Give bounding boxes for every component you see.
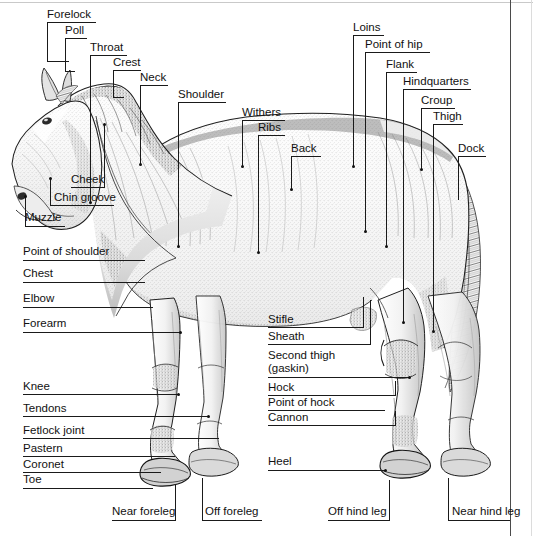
leader-poll-stem — [65, 38, 66, 72]
leader-off-hind-leg-underline — [328, 520, 390, 521]
leader-forelock-stem — [47, 22, 48, 62]
leader-sheath-stem — [370, 300, 371, 345]
label-ribs: Ribs — [258, 121, 281, 133]
diagram-canvas: Forelock Poll Throat Crest Neck Shoulder… — [0, 0, 533, 536]
point-neck — [139, 163, 142, 166]
leader-muzzle-underline — [25, 226, 65, 227]
point-heel — [384, 469, 387, 472]
leader-cheek-stem — [104, 124, 105, 187]
leader-chest-line — [23, 282, 145, 283]
leader-flank-stem — [386, 72, 387, 247]
label-second-thigh-line2: (gaskin) — [268, 362, 309, 374]
leader-stifle-stem — [363, 297, 364, 328]
label-cheek: Cheek — [71, 173, 104, 185]
point-tendons — [207, 415, 210, 418]
label-toe: Toe — [23, 473, 42, 485]
leader-neck-underline — [140, 85, 168, 86]
leader-cannon-stem — [395, 411, 396, 426]
label-chin-groove: Chin groove — [54, 191, 116, 203]
leader-thigh-stem — [433, 124, 434, 332]
label-point-of-hock: Point of hock — [268, 396, 334, 408]
label-near-foreleg: Near foreleg — [112, 505, 175, 517]
label-poll: Poll — [65, 24, 84, 36]
leader-toe-line — [23, 488, 153, 489]
leader-knee-line — [23, 394, 179, 395]
leader-near-foreleg-stem — [175, 484, 176, 520]
leader-croup-underline — [421, 108, 455, 109]
label-knee: Knee — [23, 380, 50, 392]
point-croup — [420, 168, 423, 171]
leader-cannon-line — [268, 425, 396, 426]
label-sheath: Sheath — [268, 330, 304, 342]
point-shoulder — [177, 245, 180, 248]
label-heel: Heel — [268, 455, 292, 467]
label-flank: Flank — [386, 58, 414, 70]
leader-chin-groove-elbow — [50, 205, 55, 206]
point-knee — [177, 393, 180, 396]
leader-ribs-stem — [258, 135, 259, 253]
point-point-of-hip — [364, 230, 367, 233]
label-muzzle: Muzzle — [25, 211, 61, 223]
label-elbow: Elbow — [23, 292, 54, 304]
leader-crest-stem — [113, 70, 114, 98]
label-off-hind-leg: Off hind leg — [328, 505, 387, 517]
leader-loins-underline — [353, 35, 384, 36]
leader-sheath-line — [268, 344, 371, 345]
leader-point-of-shoulder-line — [23, 260, 145, 261]
leader-back-stem — [291, 156, 292, 190]
label-point-of-hip: Point of hip — [365, 38, 423, 50]
leader-neck-stem — [140, 85, 141, 165]
label-second-thigh-line1: Second thigh — [268, 349, 335, 361]
label-tendons: Tendons — [23, 402, 66, 414]
leader-elbow-line — [23, 307, 153, 308]
label-croup: Croup — [421, 94, 452, 106]
label-chest: Chest — [23, 267, 53, 279]
leader-dock-stem — [458, 156, 459, 200]
leader-hindquarters-stem — [403, 89, 404, 323]
leader-pastern-line — [23, 456, 175, 457]
point-chin-groove — [49, 177, 52, 180]
label-off-foreleg: Off foreleg — [205, 505, 259, 517]
label-hindquarters: Hindquarters — [403, 75, 469, 87]
point-muzzle — [24, 195, 27, 198]
point-forearm — [179, 331, 182, 334]
leader-thigh-underline — [433, 124, 463, 125]
leader-coronet-line — [23, 472, 161, 473]
label-pastern: Pastern — [23, 442, 63, 454]
point-hindquarters — [402, 321, 405, 324]
leader-chin-groove-stem — [50, 178, 51, 205]
leader-point-of-hip-stem — [365, 52, 366, 232]
leader-withers-stem — [242, 120, 243, 167]
leader-off-foreleg-underline — [202, 520, 262, 521]
leader-hock-stem — [395, 381, 396, 396]
point-back — [290, 188, 293, 191]
leader-second-thigh-line — [268, 377, 410, 378]
leader-tendons-line — [23, 416, 209, 417]
point-second-thigh — [408, 376, 411, 379]
leader-crest-underline — [113, 70, 141, 71]
label-near-hind-leg: Near hind leg — [452, 505, 520, 517]
leader-muzzle-stem — [25, 196, 26, 226]
label-coronet: Coronet — [23, 458, 64, 470]
leader-off-hind-leg-stem — [389, 480, 390, 520]
leader-cheek-underline — [71, 187, 105, 188]
leader-chin-groove-underline — [54, 205, 114, 206]
point-withers — [241, 165, 244, 168]
leader-forearm-line — [23, 332, 181, 333]
label-second-thigh: Second thigh (gaskin) — [268, 349, 364, 374]
label-crest: Crest — [113, 56, 140, 68]
label-dock: Dock — [458, 142, 484, 154]
leader-point-of-hip-underline — [365, 52, 430, 53]
point-ribs — [257, 251, 260, 254]
leader-poll-elbow — [65, 71, 75, 72]
leader-back-underline — [291, 156, 321, 157]
label-cannon: Cannon — [268, 411, 308, 423]
label-stifle: Stifle — [268, 313, 294, 325]
point-cheek — [103, 123, 106, 126]
leader-near-hind-leg-underline — [448, 520, 510, 521]
point-thigh — [432, 330, 435, 333]
leader-dock-underline — [458, 156, 486, 157]
leader-poll-underline — [65, 38, 87, 39]
leader-crest-elbow — [113, 97, 124, 98]
label-point-of-shoulder: Point of shoulder — [23, 245, 109, 257]
